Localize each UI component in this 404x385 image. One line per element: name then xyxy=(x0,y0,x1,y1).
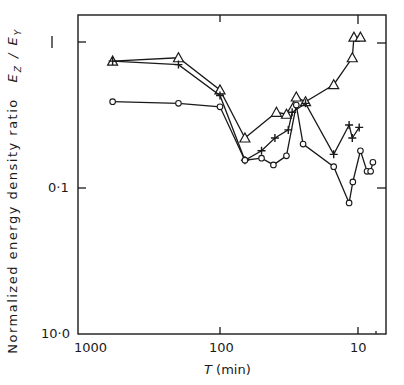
triangle-marker xyxy=(291,92,301,101)
series-layer xyxy=(108,32,376,206)
x-axis-label: T (min) xyxy=(204,362,251,377)
circle-marker xyxy=(176,101,182,107)
subscript-y: Y xyxy=(13,28,23,36)
symbol-e-den: E xyxy=(5,35,20,45)
ticks xyxy=(52,15,386,334)
x-tick-10: 10 xyxy=(350,340,367,355)
circle-marker xyxy=(346,200,352,206)
series-line-plus xyxy=(113,61,360,160)
plus-marker xyxy=(348,134,356,142)
y-axis-label: Normalized energy density ratio EZ / EY xyxy=(5,26,23,356)
triangle-marker xyxy=(271,107,281,116)
circle-marker xyxy=(271,162,277,168)
y-tick-0-01: 10·0 xyxy=(41,326,70,341)
x-axis-symbol: T xyxy=(204,362,212,377)
subscript-z: Z xyxy=(13,64,23,72)
axes-frame xyxy=(78,15,386,334)
plus-marker xyxy=(355,123,363,131)
triangle-marker xyxy=(173,53,183,62)
x-axis-unit: (min) xyxy=(212,362,251,377)
y-tick-0-1: 0·1 xyxy=(48,180,69,195)
y-axis-title: Normalized energy density ratio xyxy=(5,98,20,354)
circle-marker xyxy=(370,159,376,165)
circle-marker xyxy=(300,141,306,147)
circle-marker xyxy=(284,153,290,159)
x-tick-100: 100 xyxy=(209,340,234,355)
x-tick-1000: 1000 xyxy=(74,340,107,355)
circle-marker xyxy=(358,148,364,154)
series-line-triangle xyxy=(113,37,361,138)
triangle-marker xyxy=(329,80,339,89)
circle-marker xyxy=(259,155,265,161)
plus-marker xyxy=(345,121,353,129)
circle-marker xyxy=(350,179,356,185)
circle-marker xyxy=(217,104,223,110)
ratio-slash: / xyxy=(5,46,20,65)
circle-marker xyxy=(368,169,374,175)
y-axis-symbol: EZ / EY xyxy=(5,28,20,83)
circle-marker xyxy=(242,157,248,163)
plus-marker xyxy=(330,150,338,158)
triangle-marker xyxy=(347,53,357,62)
circle-marker xyxy=(110,99,116,105)
circle-marker xyxy=(331,164,337,170)
symbol-e-num: E xyxy=(5,72,20,82)
circle-marker xyxy=(293,102,299,108)
